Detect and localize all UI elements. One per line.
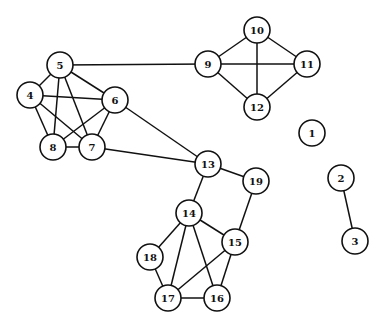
node-label: 17: [161, 293, 175, 304]
node-label: 11: [300, 59, 314, 70]
edge-5-9: [60, 64, 208, 65]
node-12: 12: [244, 94, 270, 120]
node-17: 17: [155, 285, 181, 311]
node-label: 15: [228, 237, 242, 248]
node-3: 3: [342, 228, 368, 254]
node-label: 12: [250, 102, 264, 113]
node-5: 5: [47, 52, 73, 78]
node-label: 10: [250, 25, 264, 36]
node-label: 6: [112, 95, 119, 106]
node-11: 11: [294, 51, 320, 77]
node-label: 16: [210, 293, 224, 304]
node-label: 7: [89, 142, 96, 153]
node-4: 4: [17, 82, 43, 108]
node-label: 8: [50, 142, 57, 153]
edge-7-13: [92, 147, 208, 164]
node-1: 1: [299, 120, 325, 146]
graph-diagram: 12345678910111213141516171819: [0, 0, 387, 328]
node-13: 13: [195, 151, 221, 177]
node-19: 19: [243, 168, 269, 194]
edge-6-13: [115, 100, 208, 164]
node-label: 14: [182, 208, 196, 219]
node-label: 9: [205, 59, 212, 70]
node-label: 19: [249, 176, 263, 187]
node-16: 16: [204, 285, 230, 311]
node-15: 15: [222, 229, 248, 255]
node-18: 18: [137, 244, 163, 270]
node-10: 10: [244, 17, 270, 43]
node-label: 2: [338, 173, 345, 184]
node-label: 5: [57, 60, 64, 71]
node-label: 18: [143, 252, 157, 263]
node-label: 3: [352, 236, 359, 247]
node-9: 9: [195, 51, 221, 77]
node-label: 4: [27, 90, 34, 101]
node-label: 13: [201, 159, 215, 170]
nodes-layer: 12345678910111213141516171819: [17, 17, 368, 311]
node-2: 2: [328, 165, 354, 191]
node-label: 1: [309, 128, 316, 139]
node-6: 6: [102, 87, 128, 113]
node-14: 14: [176, 200, 202, 226]
node-8: 8: [40, 134, 66, 160]
node-7: 7: [79, 134, 105, 160]
